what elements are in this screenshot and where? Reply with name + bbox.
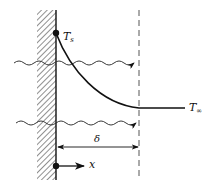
free-stream-temp-label: T∞ <box>189 102 202 115</box>
heat-flow-wave-top <box>14 61 134 65</box>
wall <box>37 10 56 180</box>
temperature-profile-curve <box>56 33 185 108</box>
free-stream-temp-subscript: ∞ <box>196 107 202 115</box>
heat-flow-wave-bottom <box>16 121 136 125</box>
thickness-label: δ <box>94 134 100 144</box>
surface-temp-label: Ts <box>63 31 74 44</box>
surface-temp-subscript: s <box>70 36 74 44</box>
surface-point <box>53 30 59 36</box>
x-axis-label: x <box>89 159 95 170</box>
boundary-layer-diagram <box>0 0 208 187</box>
